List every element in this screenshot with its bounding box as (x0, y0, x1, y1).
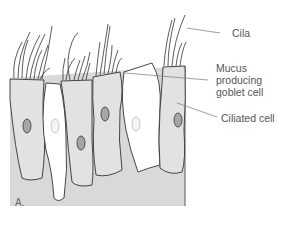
label-ciliated-cell: Ciliated cell (221, 112, 275, 124)
nucleus (174, 113, 182, 127)
ciliated-cell-4 (159, 66, 185, 173)
label-goblet-line-1: Mucus (216, 62, 263, 74)
goblet-nucleus (51, 119, 59, 133)
nucleus (101, 107, 109, 121)
nucleus (23, 119, 31, 133)
panel-label: A. (15, 197, 24, 208)
label-cilia: Cila (232, 27, 250, 39)
label-goblet-line-3: goblet cell (216, 86, 263, 98)
goblet-nucleus (132, 117, 140, 131)
label-goblet-cell: Mucus producing goblet cell (216, 62, 263, 98)
label-goblet-line-2: producing (216, 74, 263, 86)
ciliated-cell-3 (93, 72, 122, 176)
nucleus (77, 136, 85, 150)
